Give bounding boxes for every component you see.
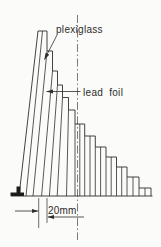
dimension-20mm-label: 20mm: [48, 205, 77, 216]
wedge-outline: [11, 31, 153, 196]
plexiglass-label: plexiglass: [56, 24, 103, 35]
base-foot: [11, 187, 25, 197]
figure-canvas: plexiglass lead foil 20mm: [0, 0, 161, 247]
leader-lines: [45, 35, 81, 92]
step-wedge-diagram: [0, 0, 161, 247]
lead-foil-label: lead foil: [83, 87, 123, 98]
